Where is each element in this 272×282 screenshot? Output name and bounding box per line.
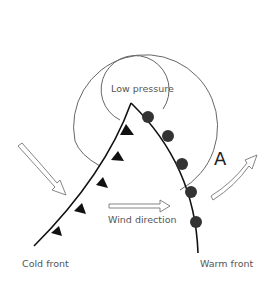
point-a-label: A: [214, 148, 226, 169]
wind-arrow-left: [18, 143, 66, 195]
outer-isobar-left: [75, 141, 100, 166]
wind-direction-label: Wind direction: [108, 214, 177, 225]
warm-front-label: Warm front: [200, 258, 253, 269]
low-pressure-label: Low pressure: [111, 83, 174, 94]
diagram-canvas: [0, 0, 272, 282]
weather-front-diagram: Low pressure Wind direction Cold front W…: [0, 0, 272, 282]
cold-front-label: Cold front: [22, 258, 69, 269]
warm-front-line: [131, 103, 198, 253]
wind-arrow-center: [109, 200, 170, 212]
